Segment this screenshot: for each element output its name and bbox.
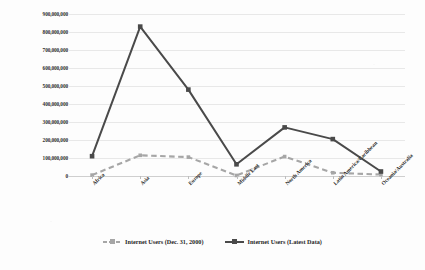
data-point-marker[interactable] xyxy=(187,155,191,159)
data-point-marker[interactable] xyxy=(379,169,384,174)
y-axis-tick-label: 800,000,000 xyxy=(43,29,68,35)
data-point-marker[interactable] xyxy=(90,154,95,159)
data-point-marker[interactable] xyxy=(331,171,335,175)
data-point-marker[interactable] xyxy=(234,162,239,167)
chart-legend: Internet Users (Dec. 31, 2000) Internet … xyxy=(0,238,425,245)
series-line-2 xyxy=(92,27,381,172)
y-axis-tick-label: 600,000,000 xyxy=(43,65,68,71)
y-axis-tick-label: 300,000,000 xyxy=(43,119,68,125)
y-axis-tick-label: 100,000,000 xyxy=(43,155,68,161)
data-point-marker[interactable] xyxy=(283,155,287,159)
legend-label-latest-data: Internet Users (Latest Data) xyxy=(247,238,321,245)
data-point-marker[interactable] xyxy=(138,154,142,158)
x-axis-tick-mark xyxy=(237,176,238,179)
legend-swatch-dashed-icon xyxy=(103,238,122,245)
y-axis-tick-label: 200,000,000 xyxy=(43,137,68,143)
y-axis-tick-label: 500,000,000 xyxy=(43,83,68,89)
data-point-marker[interactable] xyxy=(186,87,191,92)
data-point-marker[interactable] xyxy=(282,125,287,130)
y-axis-tick-label: 900,000,000 xyxy=(43,11,68,17)
series-layer xyxy=(68,14,405,176)
y-axis-tick-label: 700,000,000 xyxy=(43,47,68,53)
data-point-marker[interactable] xyxy=(330,137,335,142)
data-point-marker[interactable] xyxy=(138,24,143,29)
legend-label-dec-2000: Internet Users (Dec. 31, 2000) xyxy=(125,238,203,245)
legend-swatch-solid-icon xyxy=(225,238,244,245)
y-axis-tick-label: 400,000,000 xyxy=(43,101,68,107)
internet-users-line-chart: 900,000,000800,000,000700,000,000600,000… xyxy=(0,0,425,270)
legend-item-latest-data[interactable]: Internet Users (Latest Data) xyxy=(225,238,321,245)
legend-item-dec-2000[interactable]: Internet Users (Dec. 31, 2000) xyxy=(103,238,203,245)
